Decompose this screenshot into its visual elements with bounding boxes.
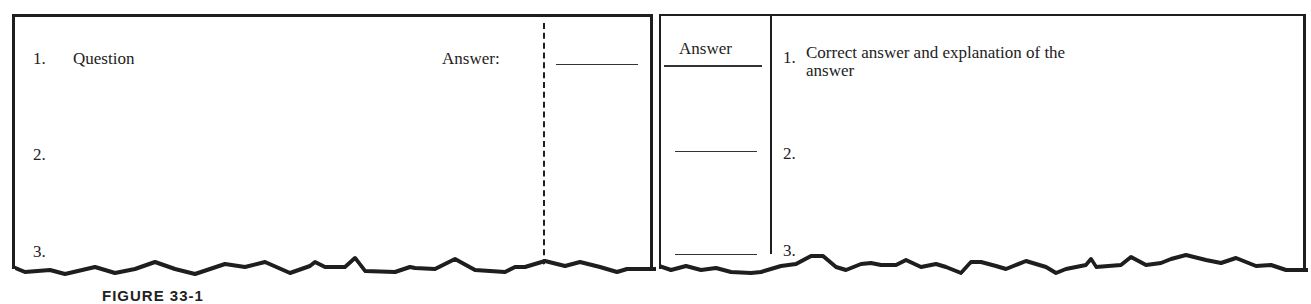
- answer-2-blank[interactable]: [675, 151, 757, 152]
- torn-edge-icon: [661, 246, 1308, 276]
- question-1-text: Question: [73, 49, 134, 69]
- question-sheet-panel: 1. Question Answer: 2. 3.: [12, 14, 653, 269]
- question-2-number: 2.: [33, 145, 46, 165]
- answer-column-divider: [770, 16, 772, 254]
- answer-1-number: 1.: [783, 48, 796, 68]
- answer-label: Answer:: [442, 49, 500, 69]
- figure-caption: FIGURE 33-1: [102, 287, 204, 304]
- answer-column-header: Answer: [679, 39, 732, 59]
- answer-sheet-panel: Answer 1. Correct answer and explanation…: [659, 14, 1306, 269]
- answer-1-explanation-line2: answer: [806, 61, 854, 81]
- torn-edge-icon: [15, 247, 656, 277]
- answer-1-explanation-line1: Correct answer and explanation of the: [806, 43, 1065, 63]
- answer-1-blank[interactable]: [556, 64, 638, 65]
- answer-2-number: 2.: [783, 144, 796, 164]
- question-1-number: 1.: [33, 49, 46, 69]
- tear-off-dashed-line: [543, 23, 545, 265]
- answer-header-underline: [664, 65, 762, 67]
